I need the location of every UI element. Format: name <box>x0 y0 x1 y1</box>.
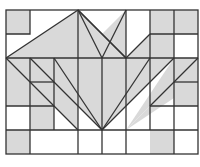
shaded-patch <box>174 10 198 34</box>
shaded-patch <box>150 130 174 154</box>
shaded-patch <box>174 82 198 106</box>
shaded-patch <box>6 10 30 34</box>
shaded-patch <box>150 34 174 58</box>
shaded-patch <box>150 10 174 34</box>
shaded-patch <box>30 106 54 130</box>
quilt-diagram <box>0 0 200 167</box>
shaded-patch <box>6 130 30 154</box>
